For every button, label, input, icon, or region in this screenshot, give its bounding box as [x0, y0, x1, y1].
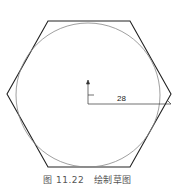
- figure-caption: 图 11.22 绘制草图: [0, 173, 175, 186]
- hexagon-outline: [7, 21, 171, 167]
- sketch-figure: 28: [0, 0, 175, 187]
- origin-marker-icon: [87, 80, 95, 104]
- dimension-label: 28: [117, 94, 126, 103]
- radius-dimension: [88, 100, 171, 104]
